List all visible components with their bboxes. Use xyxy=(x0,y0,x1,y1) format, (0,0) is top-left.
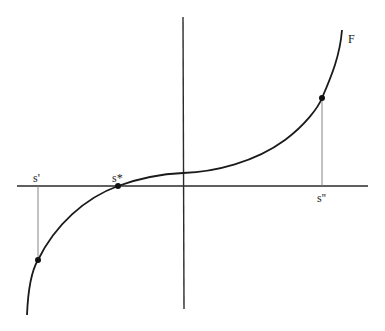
label-s-star: s* xyxy=(112,171,123,185)
point-s-double-prime xyxy=(319,95,325,101)
vertical-axis xyxy=(183,17,184,309)
point-s-prime xyxy=(35,257,41,263)
label-curve-f: F xyxy=(348,32,355,46)
label-s-double-prime: s'' xyxy=(317,191,326,205)
label-s-prime: s' xyxy=(33,171,40,185)
diagram-canvas: s' s* s'' F xyxy=(0,0,385,331)
